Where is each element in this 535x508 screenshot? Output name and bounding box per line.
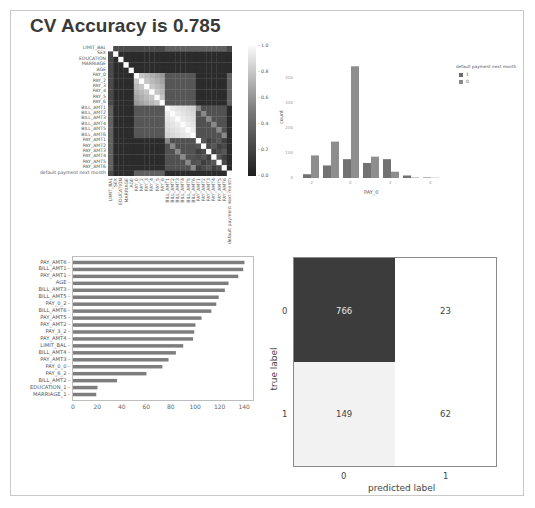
heatmap-x-label: EDUCATION [118, 178, 123, 205]
heatmap-y-labels: LIMIT_BALSEXEDUCATIONMARRIAGEAGEPAY_0PAY… [20, 46, 106, 176]
heatmap-x-label: PAY_AMT5 [217, 178, 222, 201]
importance-feature-label: PAY_AMT6 - [40, 259, 70, 266]
heatmap-x-labels: LIMIT_BALSEXEDUCATIONMARRIAGEAGEPAY_0PAY… [108, 178, 232, 252]
colorbar-tick: - 0.6 [258, 95, 268, 100]
heatmap-x-label: MARRIAGE [124, 178, 129, 202]
confusion-y-label: true label [269, 347, 279, 390]
confusion-y-tick-0: 0 [282, 306, 287, 316]
importance-feature-label: PAY_AMT4 - [40, 335, 70, 342]
importance-x-tick: 100 [189, 403, 200, 410]
importance-x-tick: 40 [118, 403, 126, 410]
legend-item-0: 0 [459, 79, 526, 84]
importance-feature-label: MARRIAGE_1 - [33, 391, 70, 398]
countplot-x-tick: 0 [349, 180, 352, 185]
importance-feature-label: PAY_AMT2 - [40, 321, 70, 328]
importance-feature-label: PAY_AMT3 - [40, 356, 70, 363]
countplot-bars [295, 60, 455, 178]
importance-x-tick: 20 [93, 403, 101, 410]
page-title: CV Accuracy is 0.785 [30, 15, 220, 37]
importance-feature-label: PAY_0_2 - [46, 300, 70, 307]
confusion-matrix-grid [293, 257, 497, 467]
colorbar-tick: - 0.0 [258, 173, 268, 178]
heatmap-x-label: PAY_4 [149, 178, 154, 191]
importance-x-tick: 80 [167, 403, 175, 410]
heatmap-x-label: PAY_5 [155, 178, 160, 191]
importance-bars [72, 256, 254, 401]
heatmap-x-label: PAY_AMT6 [222, 178, 227, 201]
importance-x-tick: 120 [214, 403, 225, 410]
confusion-matrix-panel: true label 0 1 0 1 predicted label 766 2… [270, 250, 525, 500]
importance-feature-label: BILL_AMT4 - [39, 349, 70, 356]
importance-feature-label: BILL_AMT1 - [39, 265, 70, 272]
legend-title: default payment next month [456, 64, 526, 69]
countplot-x-tick: 4 [429, 180, 432, 185]
importance-feature-label: BILL_AMT3 - [39, 286, 70, 293]
heatmap-colorbar [248, 46, 256, 176]
importance-feature-label: PAY_AMT1 - [40, 272, 70, 279]
importance-feature-label: PAY_6_2 - [46, 370, 70, 377]
correlation-heatmap-panel: LIMIT_BALSEXEDUCATIONMARRIAGEAGEPAY_0PAY… [20, 42, 275, 252]
confusion-x-tick-1: 1 [443, 471, 448, 481]
countplot-y-tick: 0 [290, 175, 293, 180]
importance-feature-label: EDUCATION_1 - [30, 384, 70, 391]
heatmap-grid [108, 46, 232, 176]
importance-y-labels: PAY_AMT6 -BILL_AMT1 -PAY_AMT1 -AGE -BILL… [20, 256, 70, 400]
colorbar-tick: - 1.0 [258, 43, 268, 48]
countplot-y-tick: 300 [285, 100, 293, 105]
heatmap-x-label: BILL_AMT4 [180, 178, 185, 203]
heatmap-x-label: PAY_6 [160, 178, 165, 191]
colorbar-tick: - 0.2 [258, 147, 268, 152]
importance-x-tick: 0 [71, 403, 75, 410]
importance-feature-label: BILL_AMT6 - [39, 307, 70, 314]
feature-importance-panel: PAY_AMT6 -BILL_AMT1 -PAY_AMT1 -AGE -BILL… [20, 252, 270, 417]
importance-feature-label: PAY_AMT5 - [40, 314, 70, 321]
countplot-x-tick: 2 [389, 180, 392, 185]
countplot-x-tick: -2 [309, 180, 313, 185]
importance-feature-label: BILL_AMT2 - [39, 377, 70, 384]
importance-x-tick: 140 [238, 403, 249, 410]
colorbar-tick: - 0.8 [258, 69, 268, 74]
countplot-y-tick: 400 [285, 75, 293, 80]
importance-feature-label: PAY_0_0 - [46, 363, 70, 370]
confusion-cell-tp: 62 [440, 409, 451, 419]
confusion-x-tick-0: 0 [341, 471, 346, 481]
countplot-y-label: count [278, 110, 284, 124]
legend-swatch-0 [459, 80, 463, 84]
heatmap-x-label: default payment next month [227, 178, 232, 244]
colorbar-ticks: - 1.0- 0.8- 0.6- 0.4- 0.2- 0.0 [258, 46, 278, 176]
countplot-x-label: PAY_0 [364, 189, 378, 195]
confusion-y-tick-1: 1 [282, 409, 287, 419]
heatmap-x-label: PAY_AMT4 [211, 178, 216, 201]
countplot-legend: default payment next month 1 0 [456, 64, 526, 94]
confusion-cell-fn: 149 [336, 409, 352, 419]
confusion-cell-tn: 766 [336, 306, 352, 316]
importance-x-ticks: 020406080100120140 [72, 402, 254, 412]
importance-feature-label: BILL_AMT5 - [39, 293, 70, 300]
heatmap-x-label: BILL_AMT6 [191, 178, 196, 203]
legend-item-1: 1 [459, 72, 526, 77]
heatmap-y-label: default payment next month [40, 170, 106, 176]
heatmap-x-label: AGE [129, 178, 134, 188]
importance-x-tick: 60 [142, 403, 150, 410]
legend-swatch-1 [459, 73, 463, 77]
countplot-x-ticks: -2024 [295, 179, 455, 187]
colorbar-tick: - 0.4 [258, 121, 268, 126]
importance-feature-label: LIMIT_BAL - [40, 342, 70, 349]
countplot-y-tick: 100 [285, 150, 293, 155]
importance-feature-label: AGE - [56, 279, 70, 286]
heatmap-x-label: BILL_AMT5 [186, 178, 191, 203]
pay0-countplot-panel: 0100200300400 count -2024 PAY_0 default … [280, 42, 525, 202]
confusion-cell-fp: 23 [440, 306, 451, 316]
countplot-y-tick: 200 [285, 125, 293, 130]
importance-feature-label: PAY_3_2 - [46, 328, 70, 335]
confusion-x-label: predicted label [368, 483, 435, 493]
